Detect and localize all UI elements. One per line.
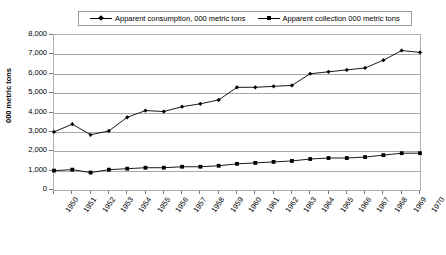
data-point: [363, 66, 367, 70]
data-point: [125, 167, 129, 171]
y-tick-label: 8,000: [11, 30, 47, 38]
data-point: [290, 83, 294, 87]
x-tick-label: 1952: [101, 196, 117, 214]
data-point: [272, 160, 276, 164]
x-tick-label: 1954: [137, 196, 153, 214]
data-point: [327, 156, 331, 160]
legend-entry-collection: Apparent collection 000 metric tons: [258, 14, 400, 23]
x-tick-label: 1967: [375, 196, 391, 214]
data-point: [326, 70, 330, 74]
x-tick-label: 1955: [156, 196, 172, 214]
data-point: [52, 169, 56, 173]
data-point: [345, 156, 349, 160]
x-tick-label: 1964: [320, 196, 336, 214]
plot-area: [53, 34, 421, 191]
data-point: [253, 85, 257, 89]
data-point: [235, 162, 239, 166]
y-tick-label: 0: [11, 185, 47, 193]
data-point: [198, 102, 202, 106]
data-point: [107, 168, 111, 172]
data-point: [382, 153, 386, 157]
chart-legend: Apparent consumption, 000 metric tons Ap…: [78, 11, 412, 26]
data-point: [381, 58, 385, 62]
data-point: [363, 155, 367, 159]
y-tick-label: 5,000: [11, 88, 47, 96]
data-point: [253, 161, 257, 165]
x-tick-label: 1956: [174, 196, 190, 214]
series-layer: [54, 35, 420, 190]
y-tick-label: 4,000: [11, 108, 47, 116]
x-tick-label: 1966: [357, 196, 373, 214]
x-tick-label: 1960: [247, 196, 263, 214]
data-point: [272, 84, 276, 88]
data-point: [89, 171, 93, 175]
data-point: [89, 133, 93, 137]
x-tick-label: 1970: [430, 196, 446, 214]
data-point: [308, 72, 312, 76]
data-point: [199, 165, 203, 169]
series-consumption: [52, 48, 422, 136]
data-point: [400, 48, 404, 52]
data-point: [70, 122, 74, 126]
x-tick-label: 1965: [339, 196, 355, 214]
y-tick-label: 6,000: [11, 69, 47, 77]
legend-label-collection: Apparent collection 000 metric tons: [283, 14, 400, 23]
data-point: [418, 50, 422, 54]
data-point: [162, 166, 166, 170]
y-tick-label: 3,000: [11, 127, 47, 135]
x-tick-label: 1950: [64, 196, 80, 214]
x-tick-label: 1959: [229, 196, 245, 214]
data-point: [70, 168, 74, 172]
data-point: [308, 157, 312, 161]
data-point: [345, 68, 349, 72]
data-point: [144, 166, 148, 170]
legend-entry-consumption: Apparent consumption, 000 metric tons: [90, 14, 246, 23]
legend-marker-square-icon: [258, 14, 280, 23]
legend-marker-diamond-icon: [90, 14, 112, 23]
data-point: [418, 151, 422, 155]
x-tick-label: 1957: [192, 196, 208, 214]
data-point: [180, 105, 184, 109]
data-point: [143, 108, 147, 112]
x-tick-label: 1951: [82, 196, 98, 214]
y-tick-label: 2,000: [11, 146, 47, 154]
data-point: [217, 164, 221, 168]
series-line: [54, 51, 420, 135]
data-point: [290, 159, 294, 163]
series-collection: [52, 151, 422, 174]
x-tick-label: 1963: [302, 196, 318, 214]
x-tick-label: 1961: [265, 196, 281, 214]
y-tick-label: 7,000: [11, 49, 47, 57]
x-tick-label: 1968: [394, 196, 410, 214]
y-tick-label: 1,000: [11, 166, 47, 174]
data-point: [400, 151, 404, 155]
x-tick-label: 1962: [284, 196, 300, 214]
x-tick-label: 1958: [211, 196, 227, 214]
data-point: [162, 109, 166, 113]
x-tick-label: 1969: [412, 196, 428, 214]
x-tick-label: 1953: [119, 196, 135, 214]
data-point: [180, 165, 184, 169]
data-point: [52, 130, 56, 134]
legend-label-consumption: Apparent consumption, 000 metric tons: [115, 14, 246, 23]
